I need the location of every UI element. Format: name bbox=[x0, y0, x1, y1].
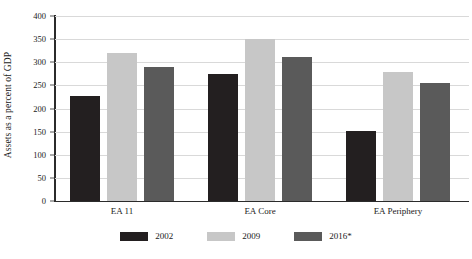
x-axis-category-label: EA Periphery bbox=[374, 206, 423, 216]
y-axis-tick-label: 150 bbox=[14, 127, 46, 137]
y-axis-tick-label: 200 bbox=[14, 104, 46, 114]
bar bbox=[282, 57, 312, 201]
bar bbox=[346, 131, 376, 201]
bar-chart-figure: Assets as a percent of GDP 0501001502002… bbox=[0, 0, 472, 259]
y-axis-tick-mark bbox=[50, 154, 54, 155]
y-axis-tick-label: 300 bbox=[14, 57, 46, 67]
bar bbox=[420, 83, 450, 201]
y-axis-tick-mark bbox=[50, 131, 54, 132]
legend-label: 2009 bbox=[242, 231, 260, 241]
legend-item[interactable]: 2009 bbox=[207, 231, 260, 241]
gridline bbox=[55, 16, 469, 17]
legend-item[interactable]: 2002 bbox=[120, 231, 173, 241]
y-axis-tick-mark bbox=[50, 108, 54, 109]
legend-label: 2002 bbox=[155, 231, 173, 241]
bar bbox=[245, 39, 275, 201]
y-axis-tick-mark bbox=[50, 39, 54, 40]
y-axis-tick-label: 100 bbox=[14, 150, 46, 160]
y-axis-tick-label: 350 bbox=[14, 34, 46, 44]
bar bbox=[70, 96, 100, 201]
legend-swatch bbox=[207, 232, 235, 241]
legend-swatch bbox=[294, 232, 322, 241]
bar bbox=[107, 53, 137, 201]
legend-item[interactable]: 2016* bbox=[294, 231, 352, 241]
legend-swatch bbox=[120, 232, 148, 241]
y-axis-tick-label: 400 bbox=[14, 11, 46, 21]
y-axis-tick-mark bbox=[50, 177, 54, 178]
y-axis-tick-mark bbox=[50, 85, 54, 86]
legend-label: 2016* bbox=[329, 231, 352, 241]
y-axis-tick-mark bbox=[50, 62, 54, 63]
bar bbox=[383, 72, 413, 201]
y-axis-tick-label: 250 bbox=[14, 80, 46, 90]
y-axis-title-text: Assets as a percent of GDP bbox=[3, 52, 13, 158]
y-axis-tick-mark bbox=[50, 16, 54, 17]
bar bbox=[144, 67, 174, 201]
y-axis-tick-mark bbox=[50, 201, 54, 202]
x-axis-category-label: EA 11 bbox=[111, 206, 133, 216]
y-axis-tick-label: 0 bbox=[14, 196, 46, 206]
plot-area bbox=[55, 16, 469, 201]
y-axis-tick-label: 50 bbox=[14, 173, 46, 183]
x-axis-category-label: EA Core bbox=[244, 206, 275, 216]
bar bbox=[208, 74, 238, 201]
chart-legend: 200220092016* bbox=[0, 231, 472, 241]
